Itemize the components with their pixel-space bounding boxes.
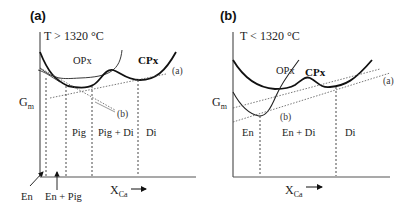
panel-a-opx-label: OPx: [73, 55, 92, 66]
panel-b-tangent-b: [233, 73, 390, 122]
panel-a-x-label: XCa: [110, 183, 128, 199]
panel-a: (a) T > 1320 °C Gm OPx CPx (a) (b) Pig P…: [19, 8, 196, 202]
panel-b-tangent-a-label: (a): [383, 76, 394, 87]
panel-a-tangent-b-label: (b): [117, 109, 128, 120]
panel-b-cpx-curve: [233, 60, 372, 89]
panel-a-tangent-b-leader: [95, 102, 115, 112]
panel-a-y-label: Gm: [19, 95, 35, 111]
panel-b-label: (b): [220, 8, 237, 23]
free-energy-diagram: (a) T > 1320 °C Gm OPx CPx (a) (b) Pig P…: [0, 0, 414, 207]
panel-a-field-pig-di: Pig + Di: [98, 127, 134, 138]
panel-b: (b) T < 1320 °C Gm OPx CPx (a) (b) En En…: [212, 8, 394, 199]
panel-a-tangent-a-label: (a): [172, 66, 183, 77]
panel-a-field-di: Di: [146, 127, 157, 138]
panel-b-cpx-label: CPx: [305, 66, 326, 78]
panel-b-opx-label: OPx: [276, 65, 295, 76]
panel-b-field-en: En: [242, 127, 254, 138]
panel-a-en-label: En: [21, 191, 33, 202]
panel-a-label: (a): [30, 8, 46, 23]
panel-b-y-label: Gm: [212, 95, 228, 111]
panel-a-field-pig: Pig: [72, 127, 87, 138]
panel-b-x-label: XCa: [285, 183, 303, 199]
panel-a-en-pointer-icon: [30, 172, 43, 186]
panel-b-temperature: T < 1320 °C: [240, 29, 300, 43]
panel-a-temperature: T > 1320 °C: [44, 29, 104, 43]
panel-b-tangent-b-label: (b): [280, 112, 291, 123]
panel-a-en-curve: [38, 70, 60, 82]
panel-b-field-en-di: En + Di: [282, 127, 315, 138]
panel-a-cpx-label: CPx: [138, 54, 159, 66]
panel-b-field-di: Di: [345, 127, 356, 138]
panel-a-en-pig-label: En + Pig: [45, 191, 83, 202]
